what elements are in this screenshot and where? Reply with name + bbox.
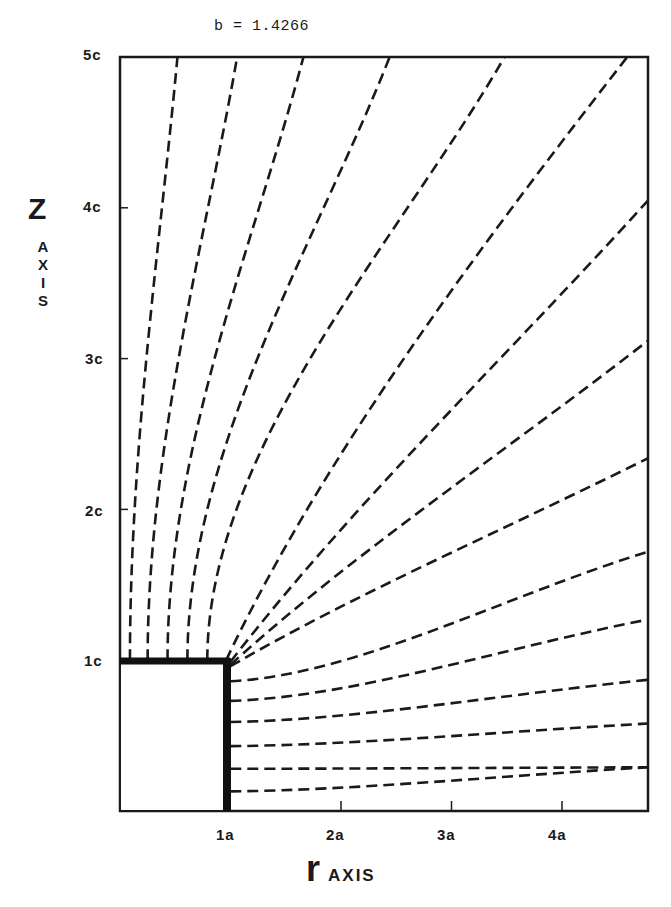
field-line [231,200,649,661]
field-line [231,767,649,791]
x-tick-label-1a: 1a [216,826,235,843]
y-axis-label-sub: A X I S [33,238,53,310]
field-line [226,57,627,660]
plot-canvas [0,0,671,907]
y-axis-letter: A [33,238,53,256]
y-tick-label-1c: 1c [84,652,103,669]
x-tick-label-3a: 3a [437,826,456,843]
field-line [231,680,649,722]
y-tick-label-5c: 5c [83,46,102,63]
x-tick-label-2a: 2a [326,826,345,843]
field-line [168,57,304,660]
y-axis-letter: S [33,292,53,310]
y-axis-letter: X [33,256,53,274]
y-axis-label-main: Z [28,192,46,226]
field-line [207,57,504,660]
field-line [130,57,178,660]
field-line [231,552,649,682]
y-tick-label-2c: 2c [85,502,104,519]
x-axis-label-sub: AXIS [328,866,376,885]
chart-title: b = 1.4266 [214,18,309,35]
y-tick-label-4c: 4c [83,198,102,215]
x-axis-label: rAXIS [306,848,376,890]
field-line [231,767,649,769]
field-line [231,724,649,747]
field-line [231,341,649,665]
y-tick-label-3c: 3c [85,350,104,367]
y-axis-letter: I [33,274,53,292]
field-line [231,458,649,666]
x-axis-label-main: r [306,848,320,889]
obstacle-block [121,661,226,810]
field-line [148,57,238,660]
x-tick-label-4a: 4a [548,826,567,843]
